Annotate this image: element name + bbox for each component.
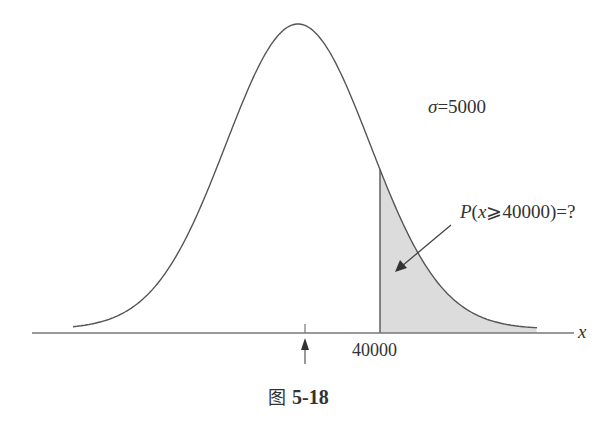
sigma-symbol: σ <box>428 96 437 117</box>
shaded-tail-region <box>380 170 537 334</box>
figure-caption: 图5-18 <box>268 383 329 409</box>
sigma-value: =5000 <box>437 96 486 117</box>
mean-arrow-icon <box>301 338 309 364</box>
prob-relation: ⩾40000)=? <box>486 201 575 222</box>
normal-curve <box>73 24 537 328</box>
probability-annotation: P(x⩾40000)=? <box>460 200 575 223</box>
normal-distribution-figure: σ=5000 P(x⩾40000)=? 40000 x 图5-18 <box>0 0 614 431</box>
sigma-label: σ=5000 <box>428 96 486 118</box>
caption-prefix: 图 <box>268 387 286 408</box>
prob-P: P <box>460 201 472 222</box>
caption-number: 5-18 <box>292 386 329 408</box>
threshold-tick-label: 40000 <box>352 340 397 361</box>
x-axis-label: x <box>578 321 586 343</box>
